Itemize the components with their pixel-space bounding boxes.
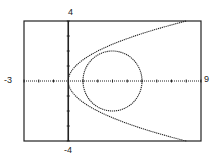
- ymin-label: -4: [64, 146, 72, 155]
- ymax-label: 4: [68, 8, 73, 17]
- xmax-label: 9: [204, 75, 209, 84]
- graph-plot: [0, 0, 218, 160]
- xmin-label: -3: [4, 76, 12, 85]
